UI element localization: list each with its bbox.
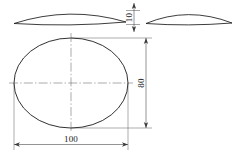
drawing-svg: 10 80 100 — [0, 0, 240, 157]
thickness-dim-label: 10 — [124, 13, 134, 23]
height-dim-label: 80 — [136, 78, 146, 88]
technical-drawing-canvas: 10 80 100 — [0, 0, 240, 157]
page-background — [0, 0, 240, 157]
width-dim-label: 100 — [64, 134, 78, 144]
